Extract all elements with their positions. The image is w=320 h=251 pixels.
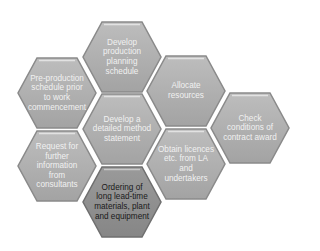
hex-label: Pre-production schedule prior to work co… (24, 74, 90, 112)
hex-label: Develop production planning schedule (92, 38, 152, 76)
hex-label: Develop a detailed method statement (89, 115, 155, 144)
hex-ordering-long-lead-time: Ordering of long lead-time materials, pl… (82, 166, 162, 238)
hex-label: Request for further information from con… (27, 142, 87, 190)
hex-label: Check conditions of contract award (217, 114, 283, 143)
hex-label: Allocate resources (156, 81, 216, 100)
hex-label: Obtain licences etc. from LA and underta… (153, 145, 219, 183)
hex-label: Ordering of long lead-time materials, pl… (87, 183, 157, 221)
